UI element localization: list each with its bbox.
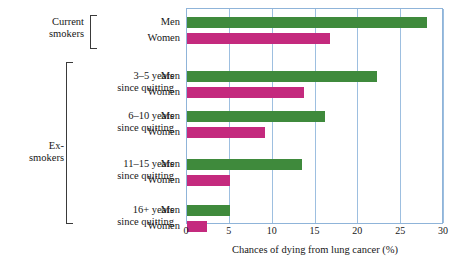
x-tick-30: 30 [438,225,448,236]
row-label-men-3: Men [110,110,180,121]
bracket-current-smokers [90,15,97,49]
x-tick-0: 0 [184,225,189,236]
bar-men-group-5 [187,205,230,216]
row-label-men-5: Men [110,204,180,215]
bar-women-group-2 [187,87,304,98]
x-axis-tick-labels: 051015202530 [186,225,444,237]
bar-men-group-2 [187,71,377,82]
row-label-men-4: Men [110,158,180,169]
row-label-column: Current smokers Ex- smokers 3–5 years si… [0,0,186,276]
bar-men-group-1 [187,17,427,28]
x-tick-15: 15 [310,225,320,236]
lung-cancer-bar-chart: Current smokers Ex- smokers 3–5 years si… [0,0,456,276]
x-tick-10: 10 [267,225,277,236]
row-label-women-3: Women [110,126,180,137]
x-tick-20: 20 [352,225,362,236]
group-label-current-smokers: Current smokers [8,16,84,39]
gridline-30 [443,9,444,223]
x-tick-5: 5 [226,225,231,236]
row-label-women-1: Women [110,32,180,43]
bar-women-group-4 [187,175,230,186]
gridline-25 [400,9,401,223]
bar-men-group-3 [187,111,325,122]
plot-area [186,8,443,224]
x-axis-title: Chances of dying from lung cancer (%) [186,244,444,255]
group-label-ex-smokers: Ex- smokers [4,140,64,163]
bar-women-group-3 [187,127,265,138]
row-label-women-5: Women [110,220,180,231]
bar-men-group-4 [187,159,302,170]
row-label-women-2: Women [110,86,180,97]
bracket-ex-smokers [66,62,73,224]
row-label-men-2: Men [110,70,180,81]
row-label-men-1: Men [110,16,180,27]
gridline-20 [357,9,358,223]
x-tick-25: 25 [395,225,405,236]
bar-women-group-1 [187,33,330,44]
row-label-women-4: Women [110,174,180,185]
